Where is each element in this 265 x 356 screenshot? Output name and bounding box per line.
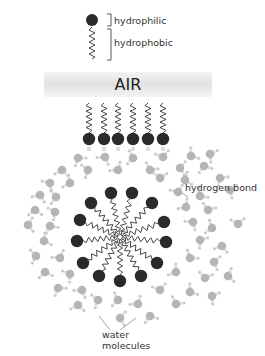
water-molecule xyxy=(229,217,245,228)
water-molecule xyxy=(224,267,236,283)
surface-surfactant-row xyxy=(83,103,169,150)
water-molecule xyxy=(187,146,201,160)
water-molecule xyxy=(154,149,170,161)
water-molecule xyxy=(176,160,187,176)
water-molecule xyxy=(111,291,123,307)
water-molecule xyxy=(128,295,142,309)
micelle-surfactant xyxy=(74,214,118,238)
water-molecule xyxy=(116,310,127,326)
hydrophilic-label: hydrophilic xyxy=(114,15,166,26)
hydrogen-bond-leader xyxy=(182,193,188,197)
hydrogen-bond-label: hydrogen bond xyxy=(185,182,257,193)
water-molecule xyxy=(90,293,102,309)
legend-head-icon xyxy=(86,14,98,26)
micelle-diagram xyxy=(0,0,265,356)
water-molecule xyxy=(126,149,137,165)
surfactant-molecule xyxy=(112,103,124,150)
water-leader-left xyxy=(99,316,110,330)
water-molecule xyxy=(27,206,43,217)
water-molecule xyxy=(54,284,68,297)
water-molecule xyxy=(198,162,214,174)
water-molecule xyxy=(45,222,60,235)
surfactant-molecule xyxy=(83,103,95,150)
water-molecule xyxy=(151,282,167,294)
surfactant-molecule xyxy=(98,103,110,150)
hydrophobic-label: hydrophobic xyxy=(114,37,173,48)
water-molecule xyxy=(50,189,61,205)
water-molecule xyxy=(40,231,53,246)
micelle-surfactant xyxy=(85,197,119,236)
water-molecule xyxy=(50,249,64,262)
surfactant-molecule xyxy=(142,103,154,150)
air-band: AIR xyxy=(44,72,212,97)
water-molecule xyxy=(108,161,122,175)
air-label: AIR xyxy=(44,75,212,94)
water-molecule xyxy=(206,149,219,164)
micelle xyxy=(71,187,172,287)
micelle-surfactant xyxy=(93,239,120,282)
surfactant-molecule xyxy=(127,103,139,150)
water-molecule xyxy=(61,269,74,283)
micelle-surfactant xyxy=(122,238,164,269)
water-molecules-layer xyxy=(24,146,246,326)
water-molecule xyxy=(204,219,216,235)
water-molecule xyxy=(183,218,197,232)
water-molecule xyxy=(72,286,86,299)
micelle-surfactant xyxy=(119,187,138,235)
water-molecule xyxy=(196,236,210,250)
water-molecule xyxy=(95,153,109,166)
water-molecule xyxy=(213,242,229,254)
water-molecule xyxy=(152,171,168,182)
water-molecule xyxy=(24,217,35,233)
water-molecules-label-line1: water xyxy=(102,329,129,340)
water-molecule xyxy=(38,268,54,280)
water-molecules-label-line2: molecules xyxy=(102,340,150,351)
water-molecule xyxy=(80,163,92,179)
micelle-surfactant xyxy=(122,216,170,237)
water-molecule xyxy=(186,249,200,263)
water-molecule xyxy=(144,312,160,324)
water-molecule xyxy=(29,249,40,265)
water-molecule xyxy=(177,197,191,211)
water-molecule xyxy=(186,282,200,296)
water-molecule xyxy=(198,271,214,283)
water-molecule xyxy=(169,184,184,197)
water-molecule xyxy=(171,295,186,308)
legend-bracket-hydrophilic xyxy=(107,14,111,26)
water-molecule xyxy=(145,161,160,174)
water-molecule xyxy=(208,291,221,305)
legend-tail-icon xyxy=(89,27,95,59)
water-molecule xyxy=(46,206,59,221)
surfactant-molecule xyxy=(157,103,169,150)
water-molecule xyxy=(167,262,180,276)
legend-bracket-hydrophobic xyxy=(107,29,111,60)
legend-surfactant-icon xyxy=(86,14,111,60)
micelle-surfactant xyxy=(105,187,121,235)
water-molecule xyxy=(202,202,217,214)
water-molecule xyxy=(61,174,74,189)
water-molecule xyxy=(210,255,222,271)
water-molecule xyxy=(31,191,46,204)
water-molecule xyxy=(69,301,85,312)
